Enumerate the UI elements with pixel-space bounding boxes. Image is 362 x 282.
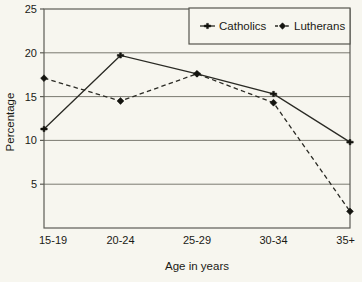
y-axis-tick-labels: 510152025 [25, 3, 37, 190]
y-tick-label-25: 25 [25, 3, 37, 15]
series-group [41, 53, 354, 215]
series-catholics [41, 53, 353, 145]
legend-label-catholics: Catholics [219, 20, 267, 32]
x-tick-label-25-29: 25-29 [183, 234, 211, 246]
chart-legend: CatholicsLutherans [189, 8, 350, 44]
data-point-lutherans-25-29 [194, 70, 201, 77]
y-tick-label-15: 15 [25, 91, 37, 103]
line-chart: 510152025 15-1920-2425-2930-3435+ Cathol… [0, 0, 362, 282]
series-line-catholics [44, 55, 350, 142]
data-point-lutherans-20-24 [117, 98, 124, 105]
series-line-lutherans [44, 74, 350, 212]
x-tick-label-20-24: 20-24 [106, 234, 134, 246]
x-axis-tick-labels: 15-1920-2425-2930-3435+ [39, 234, 355, 246]
series-lutherans [41, 70, 354, 214]
chart-container: 510152025 15-1920-2425-2930-3435+ Cathol… [0, 0, 362, 282]
data-point-lutherans-15-19 [41, 75, 48, 82]
data-point-lutherans-30-34 [270, 99, 277, 106]
y-tick-label-20: 20 [25, 47, 37, 59]
x-tick-label-15-19: 15-19 [39, 234, 67, 246]
y-tick-label-10: 10 [25, 134, 37, 146]
x-axis-title: Age in years [165, 260, 229, 272]
y-tick-label-5: 5 [31, 178, 37, 190]
legend-label-lutherans: Lutherans [294, 20, 345, 32]
x-tick-label-30-34: 30-34 [259, 234, 287, 246]
y-axis-title: Percentage [4, 93, 16, 152]
x-tick-label-35+: 35+ [336, 234, 355, 246]
